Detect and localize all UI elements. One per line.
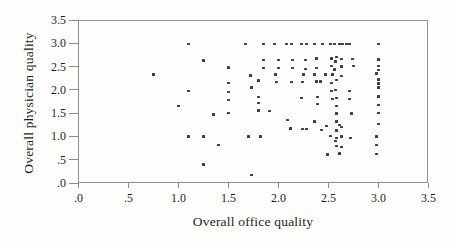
scatter-point <box>335 79 337 81</box>
scatter-point <box>377 78 379 80</box>
scatter-point <box>340 65 342 67</box>
scatter-point <box>324 73 326 75</box>
scatter-point <box>275 81 277 83</box>
x-tick-label: .5 <box>114 192 144 204</box>
scatter-point <box>377 123 379 125</box>
scatter-point <box>304 59 306 61</box>
scatter-point <box>187 90 189 92</box>
scatter-point <box>262 67 264 69</box>
scatter-point <box>250 86 252 88</box>
scatter-point <box>290 81 292 83</box>
scatter-point <box>350 112 352 114</box>
scatter-point <box>315 67 317 69</box>
scatter-point <box>227 112 229 114</box>
scatter-point <box>187 135 189 137</box>
scatter-point <box>177 105 179 107</box>
scatter-point <box>291 67 293 69</box>
scatter-point <box>340 75 342 77</box>
scatter-point <box>330 65 332 67</box>
scatter-point <box>257 109 259 111</box>
scatter-point <box>351 58 353 60</box>
scatter-point <box>320 129 322 131</box>
x-tick-mark <box>78 183 79 188</box>
scatter-point <box>202 163 204 165</box>
scatter-point <box>348 90 350 92</box>
y-tick-mark <box>69 159 78 160</box>
scatter-point <box>300 97 302 99</box>
scatter-point <box>377 95 379 97</box>
x-tick-label: 1.0 <box>164 192 194 204</box>
scatter-point <box>329 135 331 137</box>
scatter-point <box>152 73 154 75</box>
scatter-point <box>305 128 307 130</box>
y-tick-mark <box>69 113 78 114</box>
scatter-point <box>335 112 337 114</box>
y-tick-label: 2.0 <box>36 84 66 96</box>
scatter-point <box>212 113 214 115</box>
scatter-point <box>291 59 293 61</box>
x-tick-mark <box>378 183 379 188</box>
scatter-point <box>330 82 332 84</box>
y-tick-label: 3.0 <box>36 37 66 49</box>
scatter-point <box>340 126 342 128</box>
scatter-point <box>277 59 279 61</box>
scatter-point <box>227 82 229 84</box>
x-tick-label: 2.0 <box>264 192 294 204</box>
scatter-point <box>262 59 264 61</box>
scatter-point <box>334 140 336 142</box>
x-tick-label: 1.5 <box>214 192 244 204</box>
scatter-point <box>375 144 377 146</box>
y-tick-mark <box>69 136 78 137</box>
y-tick-label: .5 <box>36 154 66 166</box>
scatter-point <box>316 103 318 105</box>
scatter-point <box>302 73 304 75</box>
scatter-point <box>250 174 252 176</box>
x-tick-mark <box>178 183 179 188</box>
scatter-point <box>333 68 335 70</box>
scatter-point <box>335 129 337 131</box>
scatter-point <box>301 128 303 130</box>
plot-frame <box>78 20 428 183</box>
scatter-point <box>334 89 336 91</box>
scatter-point <box>330 90 332 92</box>
scatter-point <box>286 119 288 121</box>
scatter-point <box>335 145 337 147</box>
x-tick-mark <box>328 183 329 188</box>
x-tick-mark <box>228 183 229 188</box>
y-tick-mark <box>69 183 78 184</box>
y-tick-mark <box>69 89 78 90</box>
x-tick-mark <box>278 183 279 188</box>
scatter-point <box>257 96 259 98</box>
scatter-point <box>249 74 251 76</box>
y-tick-label: 3.5 <box>36 14 66 26</box>
scatter-point <box>289 127 291 129</box>
scatter-point <box>335 120 337 122</box>
x-tick-mark <box>128 183 129 188</box>
scatter-point <box>375 135 377 137</box>
scatter-point <box>274 73 276 75</box>
scatter-point <box>247 135 249 137</box>
y-tick-label: 1.0 <box>36 130 66 142</box>
scatter-point <box>377 104 379 106</box>
scatter-point <box>277 67 279 69</box>
scatter-point <box>377 69 379 71</box>
x-axis-title: Overall office quality <box>178 213 328 231</box>
scatter-point <box>257 102 259 104</box>
x-tick-label: 2.5 <box>314 192 344 204</box>
scatter-point <box>315 57 317 59</box>
scatter-point <box>259 135 261 137</box>
scatter-point <box>338 152 340 154</box>
scatter-point <box>349 137 351 139</box>
scatter-point <box>348 98 350 100</box>
scatter-point <box>319 80 321 82</box>
scatter-point <box>340 135 342 137</box>
x-tick-label: 3.0 <box>364 192 394 204</box>
scatter-point <box>377 86 379 88</box>
scatter-point <box>331 73 333 75</box>
scatter-point <box>377 58 379 60</box>
scatter-point <box>335 137 337 139</box>
y-tick-label: .0 <box>36 177 66 189</box>
scatter-point <box>268 110 270 112</box>
scatter-point <box>313 120 315 122</box>
scatter-point <box>202 59 204 61</box>
